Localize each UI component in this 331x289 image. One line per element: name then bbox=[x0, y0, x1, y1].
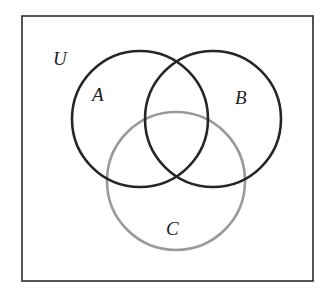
universe-label: U bbox=[53, 48, 68, 69]
set-c-label: C bbox=[166, 218, 179, 239]
venn-diagram: U A B C bbox=[0, 0, 331, 289]
set-b-label: B bbox=[235, 87, 247, 108]
set-a-label: A bbox=[90, 84, 104, 105]
set-a-circle bbox=[72, 51, 208, 187]
set-b-circle bbox=[145, 51, 281, 187]
